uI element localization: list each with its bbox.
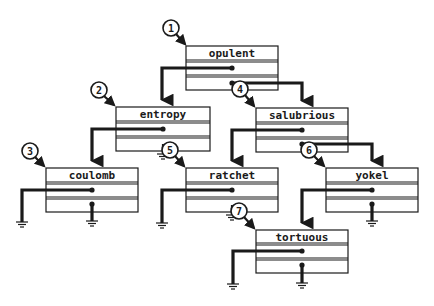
node-opulent: opulent (186, 46, 278, 90)
marker-number: 3 (27, 146, 33, 157)
ground-icon (16, 222, 28, 227)
node-tortuous: tortuous (256, 230, 348, 273)
marker-number: 1 (168, 23, 174, 34)
node-ratchet: ratchet (186, 168, 278, 212)
node-label: ratchet (209, 169, 255, 182)
node-label: salubrious (269, 109, 335, 122)
node-yokel: yokel (326, 168, 418, 212)
node-label: coulomb (69, 169, 116, 182)
node-label: yokel (355, 169, 388, 182)
node-label: tortuous (276, 231, 329, 244)
marker-number: 5 (167, 145, 173, 156)
node-entropy: entropy (116, 107, 210, 151)
marker-number: 2 (96, 85, 102, 96)
marker-number: 7 (236, 206, 242, 217)
marker-1: 1 (163, 20, 185, 44)
marker-3: 3 (22, 143, 44, 166)
node-coulomb: coulomb (46, 168, 138, 212)
marker-2: 2 (91, 82, 114, 105)
ground-icon (227, 284, 239, 289)
marker-number: 4 (237, 84, 243, 95)
tree-diagram: opulent entropy coulomb salubrious ratch… (0, 0, 434, 306)
node-label: entropy (140, 108, 187, 121)
marker-number: 6 (306, 145, 312, 156)
ground-icon (156, 223, 168, 228)
node-label: opulent (209, 47, 255, 60)
